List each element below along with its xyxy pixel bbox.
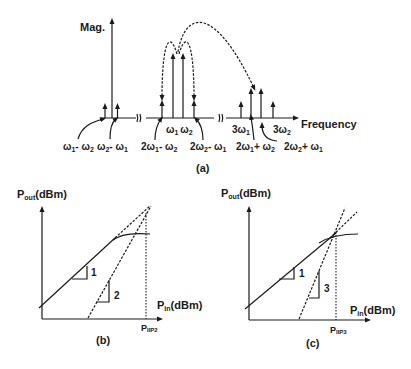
slope-label-3-c: 3 bbox=[324, 283, 330, 294]
iip2-label: PIIP2 bbox=[141, 323, 158, 333]
label-2w1-plus-w2: 2ω1+ ω2 bbox=[236, 141, 275, 153]
slope-triangle-2-b bbox=[96, 280, 109, 302]
fundamental-line-c bbox=[245, 233, 336, 309]
pin-axis-label-c: Pin(dBm) bbox=[350, 304, 396, 317]
pout-axis-label-c: Pout(dBm) bbox=[221, 187, 271, 200]
slope-triangle-3-c bbox=[309, 271, 319, 298]
label-w2-minus-w1: ω2- ω1 bbox=[97, 141, 128, 153]
intermod-arrow-right bbox=[179, 42, 194, 98]
caption-c: (c) bbox=[306, 337, 320, 349]
intermod-arrow-left bbox=[162, 42, 177, 98]
slope-label-1-b: 1 bbox=[91, 267, 97, 278]
iip3-label: PIIP3 bbox=[330, 325, 347, 335]
pointer-w1-minus-w2 bbox=[78, 119, 103, 139]
harmonic-arrow bbox=[178, 22, 254, 88]
slope-label-2-b: 2 bbox=[114, 290, 120, 301]
iip3-figure-c: Pout(dBm) 1 3 Pin(dBm) PIIP3 (c) bbox=[221, 187, 396, 349]
pointer-w2-minus-w1 bbox=[110, 119, 116, 139]
slope-triangle-1-c bbox=[279, 267, 294, 279]
mag-axis-label: Mag. bbox=[80, 21, 105, 33]
frequency-axis-label: Frequency bbox=[301, 118, 358, 130]
pointer-2w1-plus-w2 bbox=[251, 117, 254, 140]
spectrum-figure-a: Mag. Frequency bbox=[63, 21, 358, 174]
label-3w2: 3ω2 bbox=[273, 124, 291, 136]
label-2w1-minus-w2: 2ω1- ω2 bbox=[141, 141, 177, 153]
slope-label-1-c: 1 bbox=[299, 268, 305, 279]
label-2w2-minus-w1: 2ω2- ω1 bbox=[190, 141, 226, 153]
pointer-2w2-minus-w1 bbox=[196, 119, 203, 140]
label-w1-minus-w2: ω1- ω2 bbox=[63, 141, 94, 153]
label-2w2-plus-w1: 2ω2+ ω1 bbox=[284, 141, 323, 153]
im3-line-c bbox=[299, 208, 345, 319]
diagram-canvas: Mag. Frequency bbox=[0, 0, 411, 369]
caption-b: (b) bbox=[96, 334, 110, 346]
pointer-2w1-minus-w2 bbox=[155, 119, 161, 140]
pout-axis-label-b: Pout(dBm) bbox=[17, 188, 67, 201]
label-w1-w2: ω1ω2 bbox=[166, 124, 193, 136]
axis-break-icon bbox=[219, 114, 223, 122]
im2-line-b bbox=[88, 206, 151, 318]
slope-triangle-1-b bbox=[72, 266, 87, 279]
pin-axis-label-b: Pin(dBm) bbox=[157, 299, 203, 312]
iip2-figure-b: Pout(dBm) 1 2 Pin(dBm) PIIP2 (b) bbox=[17, 188, 203, 346]
caption-a: (a) bbox=[196, 162, 210, 174]
label-3w1: 3ω1 bbox=[232, 124, 250, 136]
axis-break-icon bbox=[137, 114, 141, 122]
fundamental-line-b bbox=[39, 238, 115, 308]
